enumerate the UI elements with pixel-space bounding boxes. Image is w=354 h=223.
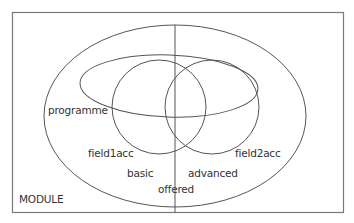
field2acc-circle <box>165 60 259 154</box>
field1acc-circle <box>112 60 206 154</box>
basic-label: basic <box>127 167 153 179</box>
programme-label: programme <box>48 104 108 116</box>
advanced-label: advanced <box>188 167 238 179</box>
venn-diagram: programme field1acc field2acc basic adva… <box>0 0 354 223</box>
offered-label: offered <box>158 183 194 195</box>
module-label: MODULE <box>19 193 63 205</box>
field2acc-label: field2acc <box>235 147 281 159</box>
field1acc-label: field1acc <box>88 147 134 159</box>
